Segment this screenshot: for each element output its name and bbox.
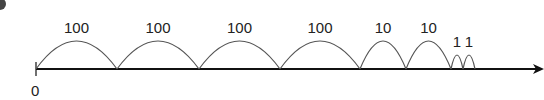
corner-badge-icon xyxy=(0,0,6,10)
jump-arc xyxy=(463,55,475,69)
jump-arc xyxy=(406,41,451,69)
jump-label: 1 xyxy=(465,33,473,50)
jump-label: 100 xyxy=(307,19,332,36)
origin-label: 0 xyxy=(31,82,39,99)
number-line-diagram: 0 100100100100101011 xyxy=(0,0,544,100)
jump-arc xyxy=(280,41,360,69)
jump-arc xyxy=(36,41,117,69)
jump-label: 1 xyxy=(453,33,461,50)
jump-label: 100 xyxy=(145,19,170,36)
jump-arc xyxy=(199,41,280,69)
jump-label: 10 xyxy=(375,19,392,36)
jump-arcs: 100100100100101011 xyxy=(36,19,475,69)
jump-label: 10 xyxy=(420,19,437,36)
jump-arc xyxy=(117,41,199,69)
jump-arc xyxy=(451,55,463,69)
jump-label: 100 xyxy=(227,19,252,36)
jump-label: 100 xyxy=(64,19,89,36)
jump-arc xyxy=(360,41,406,69)
